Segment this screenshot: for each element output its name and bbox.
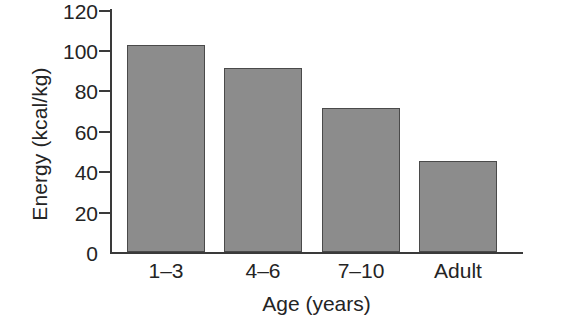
bar-0 [127, 45, 205, 252]
x-axis-category-labels: 1–3 4–6 7–10 Adult [110, 258, 523, 286]
bar-2 [322, 108, 400, 252]
y-tick-label: 60 [26, 122, 98, 143]
bar-3 [419, 161, 497, 252]
y-tick-label: 40 [26, 162, 98, 183]
x-tick-label: 1–3 [127, 258, 205, 284]
plot-area [110, 0, 523, 254]
y-axis-tick-labels: 120 100 80 60 40 20 0 [26, 0, 98, 329]
y-tick-label: 120 [26, 1, 98, 22]
y-tick-label: 100 [26, 41, 98, 62]
y-tick-label: 0 [26, 243, 98, 264]
y-tick-label: 20 [26, 203, 98, 224]
x-tick-label: 4–6 [224, 258, 302, 284]
x-tick-label: 7–10 [322, 258, 400, 284]
bar-1 [224, 68, 302, 252]
x-tick-label: Adult [419, 258, 497, 284]
y-tick-label: 80 [26, 81, 98, 102]
bar-chart-figure: Energy (kcal/kg) 120 100 80 60 40 20 0 1… [0, 0, 577, 329]
x-axis-title: Age (years) [110, 292, 523, 316]
